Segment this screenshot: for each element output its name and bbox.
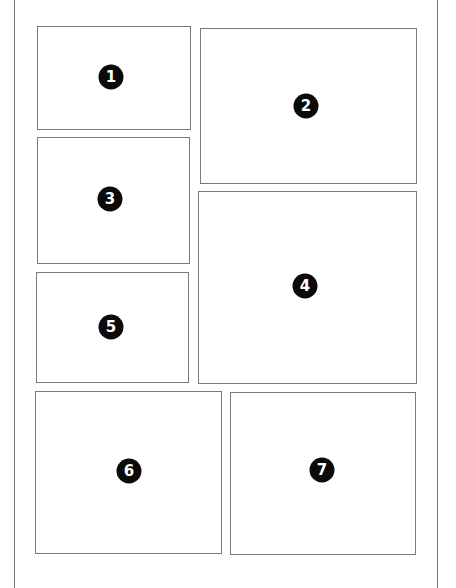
panel-number-badge: 2	[294, 94, 319, 119]
panel-number-badge: 1	[99, 65, 124, 90]
panel-2: 2	[200, 28, 417, 184]
panel-number-badge: 5	[99, 315, 124, 340]
panel-number-badge: 7	[310, 458, 335, 483]
panel-number-badge: 4	[293, 274, 318, 299]
panel-1: 1	[37, 26, 191, 130]
panel-4: 4	[198, 191, 417, 384]
panel-5: 5	[36, 272, 189, 383]
panel-number-badge: 3	[98, 187, 123, 212]
panel-7: 7	[230, 392, 416, 555]
panel-6: 6	[35, 391, 222, 554]
panel-3: 3	[37, 137, 190, 264]
panel-number-badge: 6	[117, 459, 142, 484]
